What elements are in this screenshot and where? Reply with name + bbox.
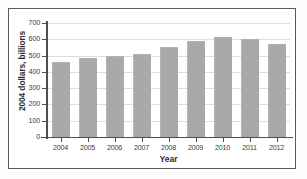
bar [268,44,286,137]
x-axis-tick-label: 2010 [208,143,238,152]
x-axis-tick-mark [115,138,116,142]
x-axis-line [41,137,293,139]
bar [52,62,70,137]
bar [160,47,178,137]
x-axis-tick-mark [223,138,224,142]
bar [79,58,97,137]
x-axis-tick-mark [88,138,89,142]
y-axis-tick-mark [42,88,47,89]
bar [187,41,205,137]
y-axis-tick-mark [42,137,47,138]
x-axis-tick-label: 2009 [181,143,211,152]
gridline [47,23,290,24]
x-axis-tick-mark [169,138,170,142]
y-axis-tick-mark [42,72,47,73]
y-axis-tick-mark [42,121,47,122]
x-axis-tick-mark [61,138,62,142]
x-axis-tick-mark [196,138,197,142]
figure: 0100200300400500600700 2004 dollars, bil… [0,0,307,179]
y-axis-tick-mark [42,104,47,105]
x-axis-tick-mark [250,138,251,142]
x-axis-tick-mark [277,138,278,142]
y-axis-tick-mark [42,39,47,40]
y-axis-tick-mark [42,23,47,24]
x-axis-tick-label: 2005 [73,143,103,152]
x-axis-tick-label: 2006 [100,143,130,152]
bar [106,56,124,137]
bar [133,54,151,137]
x-axis-title: Year [47,154,290,164]
x-axis-tick-label: 2004 [46,143,76,152]
bar [214,37,232,137]
x-axis-tick-mark [142,138,143,142]
x-axis-tick-label: 2008 [154,143,184,152]
bar [241,39,259,137]
x-axis-tick-label: 2007 [127,143,157,152]
y-axis-tick-mark [42,56,47,57]
y-axis-title: 2004 dollars, billions [17,11,27,131]
x-axis-tick-label: 2012 [262,143,292,152]
plot-area [47,23,290,137]
y-axis-tick-label: 0 [14,133,40,141]
x-axis-tick-label: 2011 [235,143,265,152]
